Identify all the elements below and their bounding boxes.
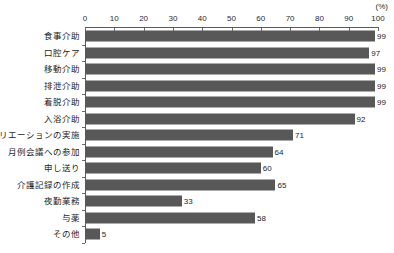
x-tick-label: 30 — [168, 14, 177, 24]
x-tick-mark — [290, 28, 291, 31]
x-tick-mark — [173, 28, 174, 31]
category-label: 食事介助 — [44, 31, 80, 41]
x-tick-label: 40 — [198, 14, 207, 24]
bar-row: 着脱介助99 — [85, 94, 378, 111]
x-axis-tick-labels: 0102030405060708090100 — [85, 14, 378, 26]
x-tick-mark — [378, 28, 379, 31]
bar — [85, 80, 375, 91]
category-label: 月例会議への参加 — [8, 147, 80, 157]
bar-value-label: 97 — [371, 48, 380, 57]
x-tick-label: 50 — [227, 14, 236, 24]
bar-value-label: 60 — [263, 164, 272, 173]
x-tick-label: 60 — [256, 14, 265, 24]
bar-row: 口腔ケア97 — [85, 45, 378, 62]
bar-value-label: 99 — [377, 32, 386, 41]
x-tick-label: 100 — [371, 14, 384, 24]
bar — [85, 64, 375, 75]
x-tick-mark — [144, 28, 145, 31]
bar-value-label: 99 — [377, 81, 386, 90]
bar-value-label: 92 — [357, 114, 366, 123]
bar-value-label: 64 — [275, 147, 284, 156]
unit-label: (%) — [376, 2, 388, 11]
bar — [85, 179, 275, 190]
bar-row: 申し送り60 — [85, 160, 378, 177]
x-tick-mark — [319, 28, 320, 31]
category-label: レクリエーションの実施 — [0, 130, 80, 140]
bar-row: その他5 — [85, 226, 378, 243]
bar — [85, 97, 375, 108]
bar — [85, 113, 355, 124]
x-tick-mark — [85, 28, 86, 31]
x-tick-mark — [114, 28, 115, 31]
x-tick-label: 70 — [286, 14, 295, 24]
bar-value-label: 99 — [377, 98, 386, 107]
bar-value-label: 33 — [184, 197, 193, 206]
bar-row: 夜勤業務33 — [85, 193, 378, 210]
x-tick-label: 80 — [315, 14, 324, 24]
bar-row: 排泄介助99 — [85, 78, 378, 95]
bar-row: 月例会議への参加64 — [85, 144, 378, 161]
x-tick-label: 90 — [344, 14, 353, 24]
bar — [85, 196, 182, 207]
bar-chart: (%) 0102030405060708090100 食事介助99口腔ケア97移… — [0, 0, 394, 253]
category-label: 排泄介助 — [44, 81, 80, 91]
plot-area: 食事介助99口腔ケア97移動介助99排泄介助99着脱介助99入浴介助92レクリエ… — [85, 28, 378, 243]
category-label: 入浴介助 — [44, 114, 80, 124]
category-label: その他 — [53, 229, 80, 239]
category-label: 与薬 — [62, 213, 80, 223]
category-label: 移動介助 — [44, 64, 80, 74]
bar-value-label: 58 — [257, 213, 266, 222]
x-tick-label: 20 — [139, 14, 148, 24]
bar — [85, 163, 261, 174]
bar-row: 介護記録の作成65 — [85, 177, 378, 194]
category-label: 介護記録の作成 — [17, 180, 80, 190]
x-tick-label: 10 — [110, 14, 119, 24]
category-label: 着脱介助 — [44, 97, 80, 107]
category-label: 口腔ケア — [44, 48, 80, 58]
x-tick-mark — [261, 28, 262, 31]
x-tick-mark — [349, 28, 350, 31]
category-label: 申し送り — [44, 163, 80, 173]
x-tick-label: 0 — [83, 14, 87, 24]
bar — [85, 229, 100, 240]
bar-row: 与薬58 — [85, 210, 378, 227]
category-label: 夜勤業務 — [44, 196, 80, 206]
bar — [85, 31, 375, 42]
bar — [85, 212, 255, 223]
bar-value-label: 5 — [102, 230, 106, 239]
y-tick-mark — [82, 243, 85, 244]
bar-row: 入浴介助92 — [85, 111, 378, 128]
x-tick-mark — [202, 28, 203, 31]
x-tick-mark — [232, 28, 233, 31]
bar-row: 移動介助99 — [85, 61, 378, 78]
bar — [85, 130, 293, 141]
bar-value-label: 65 — [277, 180, 286, 189]
bar-value-label: 71 — [295, 131, 304, 140]
bar — [85, 47, 369, 58]
bar-row: レクリエーションの実施71 — [85, 127, 378, 144]
bar — [85, 146, 273, 157]
bar-value-label: 99 — [377, 65, 386, 74]
